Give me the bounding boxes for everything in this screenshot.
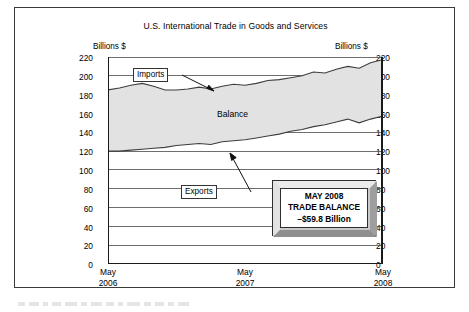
y-axis-units-right: Billions $ xyxy=(335,42,368,51)
x-tick-label-may-2008-month: May xyxy=(363,267,403,278)
y-tick-label-220-left: 220 xyxy=(67,53,93,63)
x-tick-label-may-2006-year: 2006 xyxy=(88,278,128,289)
x-tick-label-may-2008: May 2008 xyxy=(363,267,403,288)
x-tick-label-may-2007-month: May xyxy=(225,267,265,278)
y-tick-label-160-left: 160 xyxy=(67,110,93,120)
exports-callout-label: Exports xyxy=(181,185,217,199)
databox-inner: MAY 2008 TRADE BALANCE –$59.8 Billion xyxy=(280,188,368,228)
balance-region-label: Balance xyxy=(217,109,248,119)
y-tick-label-60-left: 60 xyxy=(67,204,93,214)
chart-title: U.S. International Trade in Goods and Se… xyxy=(15,21,456,31)
x-tick-label-may-2006: May 2006 xyxy=(88,267,128,288)
databox-line-1: MAY 2008 xyxy=(305,191,344,202)
imports-callout-label: Imports xyxy=(133,68,168,82)
x-tick-label-may-2007: May 2007 xyxy=(225,267,265,288)
y-tick-label-120-left: 120 xyxy=(67,147,93,157)
databox-line-3: –$59.8 Billion xyxy=(297,214,351,225)
x-tick-label-may-2008-year: 2008 xyxy=(363,278,403,289)
y-tick-label-80-left: 80 xyxy=(67,185,93,195)
y-axis-units-left: Billions $ xyxy=(93,42,126,51)
y-tick-label-200-left: 200 xyxy=(67,72,93,82)
trade-balance-databox: MAY 2008 TRADE BALANCE –$59.8 Billion xyxy=(272,180,376,236)
databox-line-2: TRADE BALANCE xyxy=(288,202,360,213)
y-tick-label-40-left: 40 xyxy=(67,223,93,233)
x-tick-label-may-2007-year: 2007 xyxy=(225,278,265,289)
y-tick-label-140-left: 140 xyxy=(67,128,93,138)
y-tick-label-20-left: 20 xyxy=(67,241,93,251)
page-footer-artifact xyxy=(16,300,316,308)
chart-frame: U.S. International Trade in Goods and Se… xyxy=(14,7,455,288)
y-tick-label-100-left: 100 xyxy=(67,166,93,176)
exports-arrow-head xyxy=(230,153,236,160)
x-tick-label-may-2006-month: May xyxy=(88,267,128,278)
y-tick-label-180-left: 180 xyxy=(67,91,93,101)
